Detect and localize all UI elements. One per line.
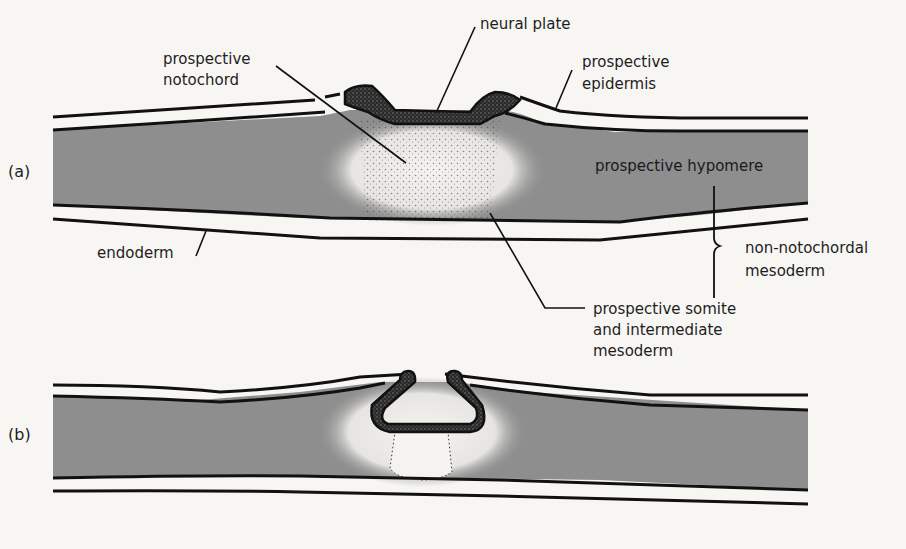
- label-non-notochordal-1: non-notochordal: [745, 239, 868, 258]
- panel-label-b: (b): [8, 425, 31, 444]
- panel-label-a: (a): [8, 162, 30, 181]
- notochord-b: [390, 430, 452, 480]
- label-non-notochordal-2: mesoderm: [745, 262, 825, 281]
- label-prospective-hypomere: prospective hypomere: [595, 157, 763, 176]
- label-neural-plate: neural plate: [480, 15, 571, 34]
- leader-somite: [490, 213, 585, 308]
- label-prospective-epidermis-2: epidermis: [582, 75, 656, 94]
- notochord-a: [360, 118, 500, 222]
- epidermis-upper-line-a-right: [520, 97, 808, 118]
- label-somite-2: and intermediate: [593, 321, 723, 340]
- label-somite-1: prospective somite: [593, 300, 736, 319]
- label-prospective-notochord-1: prospective: [163, 50, 251, 69]
- leader-neural-plate: [436, 27, 475, 113]
- embryo-cross-section-figure: (a) (b) neural plate prospective notocho…: [0, 0, 906, 549]
- endoderm-line-b: [53, 491, 808, 504]
- panel-b-drawing: [53, 371, 808, 504]
- leader-endoderm: [196, 231, 206, 256]
- label-endoderm: endoderm: [97, 244, 174, 263]
- leader-epidermis: [556, 70, 572, 108]
- label-prospective-notochord-2: notochord: [163, 71, 239, 90]
- label-somite-3: mesoderm: [593, 342, 673, 361]
- label-prospective-epidermis-1: prospective: [582, 53, 670, 72]
